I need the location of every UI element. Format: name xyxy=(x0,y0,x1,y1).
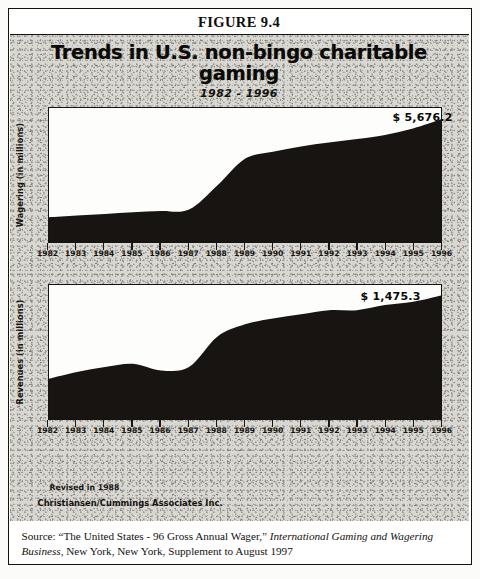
x-axis-tick-label: 1994 xyxy=(375,249,396,258)
x-axis-tick-label: 1996 xyxy=(431,426,452,435)
chart-revenues: Revenues (in millions) $ 1,475.3 1982198… xyxy=(10,284,469,462)
x-axis-tick-label: 1991 xyxy=(290,249,311,258)
y-axis-label-wagering-text: Wagering (in millions) xyxy=(16,123,26,227)
source-suffix: , New York, New York, Supplement to Augu… xyxy=(61,545,293,557)
note-revised: Revised in 1988 xyxy=(50,483,120,492)
figure-header: FIGURE 9.4 xyxy=(10,10,469,36)
plot-inner-wagering xyxy=(49,108,441,242)
area-series-revenues xyxy=(49,285,441,419)
x-axis-tick-label: 1984 xyxy=(93,249,114,258)
y-axis-label-revenues-text: Revenues (in millions) xyxy=(16,300,26,405)
x-axis-tick-label: 1982 xyxy=(37,249,58,258)
x-axis-tick-label: 1992 xyxy=(318,249,339,258)
figure-poster-panel: Trends in U.S. non-bingo charitable gami… xyxy=(10,35,469,521)
chart-title: Trends in U.S. non-bingo charitable gami… xyxy=(10,43,469,84)
x-axis-tick-label: 1986 xyxy=(149,249,170,258)
figure-page: FIGURE 9.4 Trends in U.S. non-bingo char… xyxy=(0,0,480,579)
x-axis-tick-label: 1990 xyxy=(262,249,283,258)
x-axis-tick-label: 1985 xyxy=(121,426,142,435)
x-axis-tick-label: 1992 xyxy=(318,426,339,435)
x-axis-wagering: 1982198319841985198619871988198919901991… xyxy=(48,243,442,267)
x-axis-tick-label: 1984 xyxy=(93,426,114,435)
plot-inner-revenues xyxy=(49,285,441,419)
x-axis-tick-label: 1986 xyxy=(149,426,170,435)
area-series-wagering xyxy=(49,108,441,242)
y-axis-label-wagering: Wagering (in millions) xyxy=(12,107,30,243)
value-label-revenues: $ 1,475.3 xyxy=(361,290,421,303)
x-axis-tick-label: 1993 xyxy=(346,426,367,435)
x-axis-tick-label: 1989 xyxy=(234,249,255,258)
figure-label: FIGURE 9.4 xyxy=(198,14,280,31)
value-label-wagering: $ 5,676.2 xyxy=(393,111,453,124)
title-block: Trends in U.S. non-bingo charitable gami… xyxy=(10,43,469,100)
x-axis-tick-label: 1993 xyxy=(346,249,367,258)
source-citation: Source: “The United States - 96 Gross An… xyxy=(10,523,469,563)
x-axis-tick-label: 1995 xyxy=(403,249,424,258)
x-axis-tick-label: 1983 xyxy=(65,249,86,258)
x-axis-revenues: 1982198319841985198619871988198919901991… xyxy=(48,420,442,444)
note-credit: Christiansen/Cummings Associates Inc. xyxy=(38,498,223,508)
plot-area-wagering xyxy=(48,107,442,243)
x-axis-labels-revenues: 1982198319841985198619871988198919901991… xyxy=(48,426,442,439)
x-axis-tick-label: 1994 xyxy=(375,426,396,435)
y-axis-label-revenues: Revenues (in millions) xyxy=(12,284,30,420)
chart-subtitle: 1982 - 1996 xyxy=(10,87,469,100)
x-axis-labels-wagering: 1982198319841985198619871988198919901991… xyxy=(48,249,442,262)
x-axis-tick-label: 1988 xyxy=(206,426,227,435)
x-axis-tick-label: 1983 xyxy=(65,426,86,435)
x-axis-tick-label: 1995 xyxy=(403,426,424,435)
x-axis-tick-label: 1985 xyxy=(121,249,142,258)
x-axis-tick-label: 1988 xyxy=(206,249,227,258)
plot-area-revenues xyxy=(48,284,442,420)
x-axis-tick-label: 1982 xyxy=(37,426,58,435)
chart-wagering: Wagering (in millions) $ 5,676.2 1982198… xyxy=(10,107,469,277)
x-axis-tick-label: 1996 xyxy=(431,249,452,258)
source-text: Source: “The United States - 96 Gross An… xyxy=(22,529,457,559)
x-axis-tick-label: 1987 xyxy=(178,426,199,435)
source-prefix: Source: “The United States - 96 Gross An… xyxy=(22,530,270,542)
x-axis-tick-label: 1990 xyxy=(262,426,283,435)
x-axis-tick-label: 1991 xyxy=(290,426,311,435)
x-axis-tick-label: 1987 xyxy=(178,249,199,258)
x-axis-tick-label: 1989 xyxy=(234,426,255,435)
